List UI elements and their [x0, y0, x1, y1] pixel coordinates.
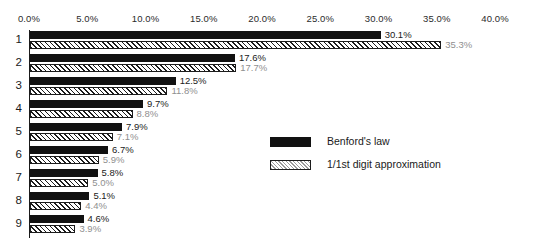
x-axis-tick-label: 35.0%	[407, 13, 467, 24]
bar-benfords-law	[30, 54, 235, 62]
bar-benfords-law	[30, 123, 122, 131]
bar-benfords-law	[30, 77, 176, 85]
legend-item[interactable]: Benford's law	[270, 133, 520, 156]
legend-label: 1/1st digit approximation	[327, 158, 441, 170]
category-label: 6	[0, 148, 22, 160]
bar-benfords-law	[30, 192, 89, 200]
bar-digit-approximation	[30, 41, 441, 49]
category-label: 9	[0, 217, 22, 229]
category-label: 5	[0, 125, 22, 137]
legend-swatch-benfords-law	[270, 137, 311, 147]
bar-digit-approximation	[30, 156, 99, 164]
category-label: 1	[0, 33, 22, 45]
x-axis-tick-labels: 0.0%5.0%10.0%15.0%20.0%25.0%30.0%35.0%40…	[0, 13, 535, 27]
bar-value-label: 17.7%	[240, 62, 267, 73]
bar-value-label: 11.8%	[171, 85, 197, 96]
category-label: 8	[0, 194, 22, 206]
legend-swatch-digit-approximation	[270, 160, 311, 170]
bar-digit-approximation	[30, 179, 88, 187]
category-label: 7	[0, 171, 22, 183]
x-axis-tick-label: 0.0%	[0, 13, 59, 24]
bar-value-label: 8.8%	[137, 108, 159, 119]
x-axis-tick-label: 15.0%	[174, 13, 234, 24]
x-axis-tick-label: 5.0%	[57, 13, 117, 24]
bar-digit-approximation	[30, 110, 133, 118]
legend-label: Benford's law	[327, 135, 390, 147]
bar-digit-approximation	[30, 87, 167, 95]
bar-digit-approximation	[30, 133, 113, 141]
bar-group: 130.1%35.3%	[0, 30, 535, 53]
bar-group: 94.6%3.9%	[0, 214, 535, 237]
bar-group: 312.5%11.8%	[0, 76, 535, 99]
bar-benfords-law	[30, 31, 381, 39]
bar-group: 49.7%8.8%	[0, 99, 535, 122]
bar-value-label: 35.3%	[445, 39, 472, 50]
bar-value-label: 4.4%	[85, 200, 107, 211]
bar-digit-approximation	[30, 225, 75, 233]
bar-value-label: 7.1%	[117, 131, 139, 142]
bar-digit-approximation	[30, 64, 236, 72]
x-axis-tick-label: 10.0%	[116, 13, 176, 24]
bar-value-label: 30.1%	[385, 29, 412, 40]
x-axis-tick-label: 20.0%	[232, 13, 292, 24]
chart-legend: Benford's law1/1st digit approximation	[270, 133, 520, 179]
legend-item[interactable]: 1/1st digit approximation	[270, 156, 520, 179]
x-axis-tick-label: 40.0%	[465, 13, 525, 24]
bar-group: 217.6%17.7%	[0, 53, 535, 76]
category-label: 4	[0, 102, 22, 114]
benford-law-bar-chart: 0.0%5.0%10.0%15.0%20.0%25.0%30.0%35.0%40…	[0, 0, 535, 247]
bar-benfords-law	[30, 100, 143, 108]
bar-value-label: 5.9%	[103, 154, 125, 165]
bar-benfords-law	[30, 169, 98, 177]
bar-digit-approximation	[30, 202, 81, 210]
category-label: 2	[0, 56, 22, 68]
x-axis-tick-label: 30.0%	[349, 13, 409, 24]
bar-benfords-law	[30, 146, 108, 154]
x-axis-tick-label: 25.0%	[290, 13, 350, 24]
bar-value-label: 5.0%	[92, 177, 114, 188]
bar-group: 85.1%4.4%	[0, 191, 535, 214]
bar-value-label: 3.9%	[79, 223, 101, 234]
category-label: 3	[0, 79, 22, 91]
bar-benfords-law	[30, 215, 84, 223]
